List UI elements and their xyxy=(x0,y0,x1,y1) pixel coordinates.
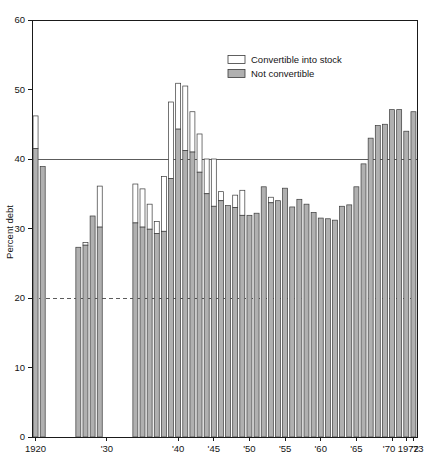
bar-not-convertible-1936 xyxy=(147,229,152,437)
bar-convertible-1939 xyxy=(169,102,174,178)
bar-convertible-1940 xyxy=(176,83,181,129)
bar-not-convertible-1948 xyxy=(233,208,238,437)
bar-not-convertible-1958 xyxy=(304,204,309,437)
bar-not-convertible-1950 xyxy=(247,215,252,437)
bar-convertible-1943 xyxy=(197,134,202,172)
y-tick-label-30: 30 xyxy=(14,223,25,234)
bar-not-convertible-1941 xyxy=(183,151,188,437)
bar-not-convertible-1970 xyxy=(390,110,395,437)
bar-not-convertible-1955 xyxy=(283,188,288,437)
x-tick-label-1955: '55 xyxy=(279,443,291,454)
x-tick-label-1945: '45 xyxy=(208,443,220,454)
bar-convertible-1949 xyxy=(240,190,245,215)
x-axis-ticks: 1920'30'40'45'50'55'60'65'701972'73 xyxy=(25,437,424,454)
bar-not-convertible-1962 xyxy=(333,220,338,437)
bar-not-convertible-1949 xyxy=(240,215,245,437)
bar-not-convertible-1953 xyxy=(268,203,273,437)
y-tick-label-40: 40 xyxy=(14,153,25,164)
bar-not-convertible-1951 xyxy=(254,213,259,437)
bar-convertible-1942 xyxy=(190,112,195,152)
bar-not-convertible-1934 xyxy=(133,223,138,437)
bar-not-convertible-1964 xyxy=(347,205,352,437)
y-axis-label: Percent debt xyxy=(4,205,15,259)
bar-not-convertible-1920 xyxy=(33,149,38,437)
bar-not-convertible-1971 xyxy=(397,110,402,437)
bar-not-convertible-1973 xyxy=(411,112,416,437)
bar-convertible-1945 xyxy=(211,159,216,206)
bar-convertible-1936 xyxy=(147,204,152,229)
bar-not-convertible-1937 xyxy=(154,233,159,437)
bar-not-convertible-1954 xyxy=(275,201,280,437)
bar-not-convertible-1960 xyxy=(318,218,323,437)
bar-convertible-1935 xyxy=(140,189,145,227)
y-tick-label-20: 20 xyxy=(14,292,25,303)
bar-convertible-1929 xyxy=(97,186,102,227)
bars-group xyxy=(33,83,416,437)
x-tick-label-1950: '50 xyxy=(243,443,255,454)
plot-frame xyxy=(32,20,417,437)
gridlines xyxy=(32,159,417,298)
bar-not-convertible-1927 xyxy=(83,245,88,437)
y-tick-label-60: 60 xyxy=(14,14,25,25)
bar-not-convertible-1942 xyxy=(190,152,195,437)
y-tick-label-50: 50 xyxy=(14,84,25,95)
legend-swatch-convertible xyxy=(228,56,245,64)
bar-not-convertible-1935 xyxy=(140,227,145,437)
bar-not-convertible-1956 xyxy=(290,207,295,437)
y-tick-label-0: 0 xyxy=(20,431,25,442)
bar-not-convertible-1945 xyxy=(211,206,216,437)
bar-convertible-1941 xyxy=(183,86,188,151)
chart-legend: Convertible into stockNot convertible xyxy=(228,54,342,79)
bar-convertible-1946 xyxy=(218,192,223,201)
bar-convertible-1938 xyxy=(161,176,166,231)
y-tick-label-10: 10 xyxy=(14,362,25,373)
bar-not-convertible-1928 xyxy=(90,216,95,437)
bar-not-convertible-1944 xyxy=(204,194,209,437)
x-tick-label-1930: '30 xyxy=(101,443,113,454)
bar-not-convertible-1963 xyxy=(340,206,345,437)
axes-frame xyxy=(32,20,417,437)
bar-not-convertible-1972 xyxy=(404,131,409,437)
x-tick-label-1970: '70 xyxy=(383,443,395,454)
x-tick-label-1960: '60 xyxy=(315,443,327,454)
bar-chart: 0102030405060 1920'30'40'45'50'55'60'65'… xyxy=(0,0,425,475)
bar-not-convertible-1947 xyxy=(226,206,231,437)
bar-convertible-1953 xyxy=(268,197,273,203)
bar-not-convertible-1938 xyxy=(161,231,166,437)
chart-figure: 0102030405060 1920'30'40'45'50'55'60'65'… xyxy=(0,0,425,475)
x-tick-label-1973: '73 xyxy=(411,443,423,454)
y-axis-ticks: 0102030405060 xyxy=(14,14,32,442)
bar-not-convertible-1959 xyxy=(311,213,316,437)
bar-not-convertible-1957 xyxy=(297,199,302,437)
bar-convertible-1937 xyxy=(154,222,159,234)
x-tick-label-1940: '40 xyxy=(172,443,184,454)
bar-not-convertible-1926 xyxy=(76,247,81,437)
bar-convertible-1927 xyxy=(83,242,88,245)
bar-not-convertible-1929 xyxy=(97,227,102,437)
bar-not-convertible-1943 xyxy=(197,172,202,437)
legend-label-not-convertible: Not convertible xyxy=(251,68,314,79)
bar-convertible-1934 xyxy=(133,184,138,223)
x-tick-label-1965: '65 xyxy=(350,443,362,454)
bar-not-convertible-1967 xyxy=(368,138,373,437)
bar-not-convertible-1966 xyxy=(361,164,366,437)
bar-convertible-1948 xyxy=(233,195,238,208)
legend-label-convertible: Convertible into stock xyxy=(251,54,342,65)
bar-convertible-1920 xyxy=(33,116,38,149)
bar-not-convertible-1961 xyxy=(325,219,330,437)
bar-not-convertible-1940 xyxy=(176,129,181,437)
bar-not-convertible-1965 xyxy=(354,187,359,437)
bar-not-convertible-1946 xyxy=(218,201,223,437)
bar-not-convertible-1968 xyxy=(375,126,380,437)
legend-swatch-not-convertible xyxy=(228,70,245,78)
bar-convertible-1944 xyxy=(204,159,209,194)
x-tick-label-1920: 1920 xyxy=(25,443,46,454)
bar-not-convertible-1921 xyxy=(40,167,45,437)
bar-not-convertible-1969 xyxy=(382,124,387,437)
bar-not-convertible-1952 xyxy=(261,187,266,437)
bar-not-convertible-1939 xyxy=(169,178,174,437)
